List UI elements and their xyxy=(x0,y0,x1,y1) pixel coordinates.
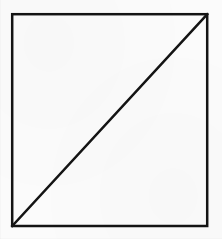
diagonal-line xyxy=(12,14,207,226)
square-with-diagonal-figure xyxy=(0,0,222,239)
figure-canvas xyxy=(0,0,222,239)
